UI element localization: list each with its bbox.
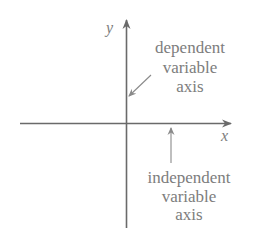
independent-line-2: variable (162, 187, 217, 206)
independent-variable-annotation: independent variable axis (147, 168, 230, 224)
dependent-line-2: variable (163, 58, 218, 77)
independent-line-1: independent (147, 168, 230, 187)
x-axis-label: x (220, 127, 228, 144)
dependent-variable-annotation: dependent variable axis (155, 38, 225, 96)
dependent-line-3: axis (176, 77, 203, 96)
independent-line-3: axis (175, 205, 202, 224)
dependent-line-1: dependent (155, 38, 225, 57)
dependent-axis-pointer-arrow (129, 75, 151, 96)
y-axis-label: y (104, 19, 114, 37)
coordinate-axes-diagram: y x dependent variable axis independent … (0, 0, 260, 244)
